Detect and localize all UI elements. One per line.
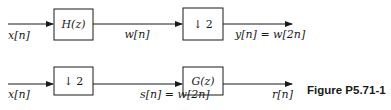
filter-h-label: H(z) [61, 18, 86, 31]
output-label-1: y[n] = w[2n] [234, 28, 306, 41]
output-label-2: r[n] [272, 88, 294, 101]
figure-caption: Figure P5.71-1 [307, 84, 386, 96]
downsampler-label-2: ↓ 2 [64, 75, 84, 88]
mid-label-1: w[n] [124, 28, 150, 41]
block-diagram: x[n] H(z) w[n] ↓ 2 y[n] = w[2n] x[n] ↓ 2… [0, 0, 391, 110]
system-1: x[n] H(z) w[n] ↓ 2 y[n] = w[2n] [8, 8, 306, 42]
downsampler-label-1: ↓ 2 [193, 18, 213, 31]
filter-g-label: G(z) [191, 75, 214, 88]
input-label-2: x[n] [8, 88, 31, 101]
system-2: x[n] ↓ 2 s[n] = w[2n] G(z) r[n] [8, 67, 294, 101]
input-label-1: x[n] [8, 29, 31, 42]
